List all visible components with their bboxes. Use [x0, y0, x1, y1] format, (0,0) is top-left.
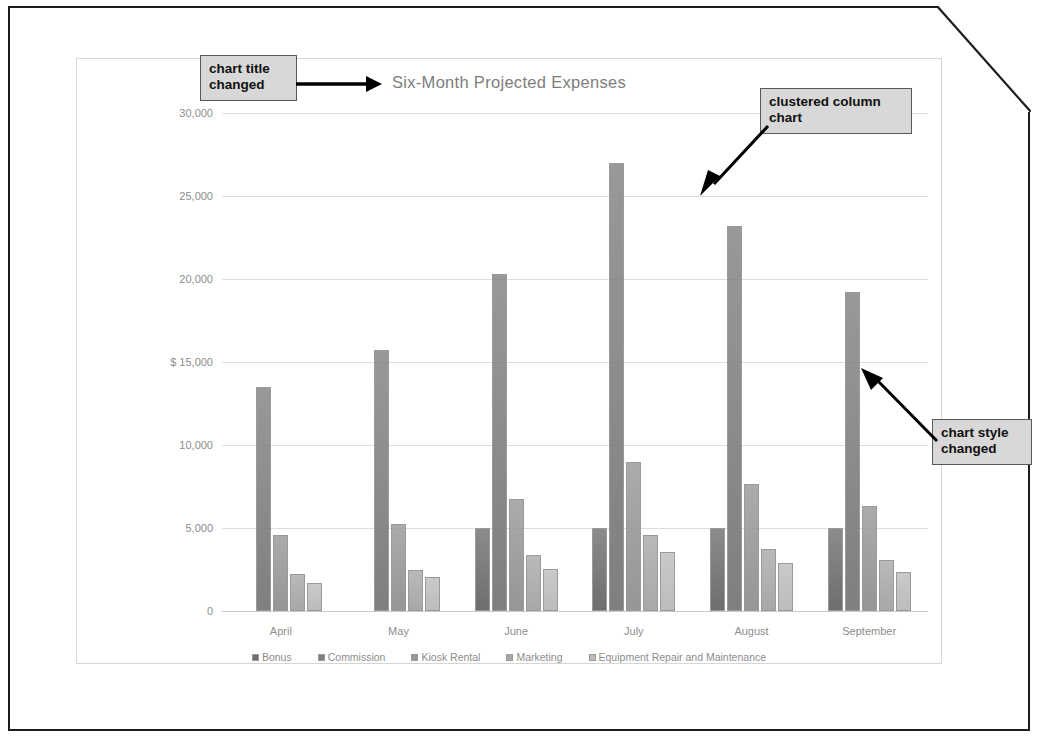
- legend-item[interactable]: Marketing: [506, 651, 562, 663]
- y-axis-tick-label: 10,000: [179, 439, 213, 451]
- bar[interactable]: [643, 535, 658, 611]
- bar[interactable]: [425, 577, 440, 611]
- chart-container[interactable]: Six-Month Projected Expenses 05,00010,00…: [76, 58, 942, 664]
- bar[interactable]: [845, 292, 860, 611]
- chart-plot-area[interactable]: 05,00010,000$ 15,00020,00025,00030,000: [222, 113, 928, 611]
- y-axis-tick-label: 30,000: [179, 107, 213, 119]
- bar-group[interactable]: [810, 113, 928, 611]
- chart-legend[interactable]: BonusCommissionKiosk RentalMarketingEqui…: [77, 651, 941, 663]
- bar[interactable]: [761, 549, 776, 611]
- legend-label: Commission: [328, 651, 386, 663]
- x-axis-label: April: [222, 625, 340, 637]
- bar-group[interactable]: [222, 113, 340, 611]
- bar[interactable]: [509, 499, 524, 611]
- legend-swatch-icon: [506, 654, 513, 661]
- x-axis-label: August: [693, 625, 811, 637]
- y-axis-tick-label: 20,000: [179, 273, 213, 285]
- legend-swatch-icon: [252, 654, 259, 661]
- gridline: [222, 611, 928, 612]
- legend-label: Marketing: [516, 651, 562, 663]
- bar-group[interactable]: [575, 113, 693, 611]
- bar[interactable]: [374, 350, 389, 611]
- bar-group[interactable]: [340, 113, 458, 611]
- bar[interactable]: [710, 528, 725, 611]
- bar-group[interactable]: [457, 113, 575, 611]
- bar[interactable]: [896, 572, 911, 611]
- legend-swatch-icon: [411, 654, 418, 661]
- legend-item[interactable]: Equipment Repair and Maintenance: [589, 651, 767, 663]
- legend-swatch-icon: [318, 654, 325, 661]
- x-axis-label: May: [340, 625, 458, 637]
- bar-series-area[interactable]: [222, 113, 928, 611]
- bar[interactable]: [290, 574, 305, 611]
- legend-item[interactable]: Kiosk Rental: [411, 651, 480, 663]
- bar[interactable]: [778, 563, 793, 611]
- bar[interactable]: [492, 274, 507, 611]
- legend-item[interactable]: Commission: [318, 651, 386, 663]
- legend-label: Bonus: [262, 651, 292, 663]
- y-axis-tick-label: $ 15,000: [170, 356, 213, 368]
- bar-group[interactable]: [693, 113, 811, 611]
- bar[interactable]: [307, 583, 322, 611]
- legend-label: Kiosk Rental: [421, 651, 480, 663]
- y-axis-tick-label: 25,000: [179, 190, 213, 202]
- bar[interactable]: [828, 528, 843, 611]
- bar[interactable]: [660, 552, 675, 611]
- bar[interactable]: [543, 569, 558, 611]
- legend-label: Equipment Repair and Maintenance: [599, 651, 767, 663]
- y-axis-tick-label: 0: [207, 605, 213, 617]
- bar[interactable]: [391, 524, 406, 611]
- x-axis-label: September: [810, 625, 928, 637]
- bar[interactable]: [626, 462, 641, 611]
- legend-swatch-icon: [589, 654, 596, 661]
- bar[interactable]: [609, 163, 624, 611]
- legend-item[interactable]: Bonus: [252, 651, 292, 663]
- callout-chart-title-changed: chart title changed: [200, 55, 297, 101]
- bar[interactable]: [744, 484, 759, 611]
- callout-clustered-column-chart: clustered column chart: [760, 88, 912, 134]
- x-axis-labels[interactable]: AprilMayJuneJulyAugustSeptember: [222, 625, 928, 637]
- bar[interactable]: [408, 570, 423, 611]
- bar[interactable]: [526, 555, 541, 611]
- y-axis-tick-label: 5,000: [185, 522, 213, 534]
- callout-chart-style-changed: chart style changed: [932, 419, 1032, 465]
- x-axis-label: July: [575, 625, 693, 637]
- x-axis-label: June: [457, 625, 575, 637]
- bar[interactable]: [273, 535, 288, 611]
- bar[interactable]: [256, 387, 271, 611]
- bar[interactable]: [862, 506, 877, 611]
- bar[interactable]: [727, 226, 742, 611]
- bar[interactable]: [592, 528, 607, 611]
- bar[interactable]: [879, 560, 894, 611]
- bar[interactable]: [475, 528, 490, 611]
